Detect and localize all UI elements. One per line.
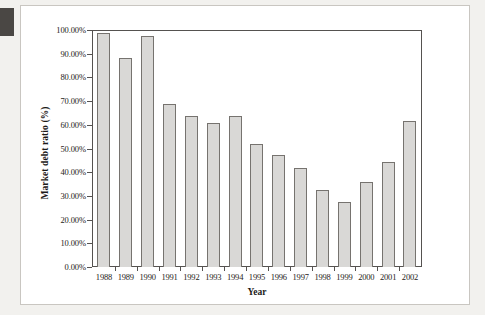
bar-slot [377,31,399,267]
bar-slot [180,31,202,267]
y-axis-tick-label: 0.00% [65,262,86,272]
y-axis-tick-label: 100.00% [56,25,86,35]
y-axis-tick-label: 90.00% [60,49,86,59]
x-axis-tick-mark [180,267,181,271]
y-axis-title: Market debt ratio (%) [40,63,50,243]
bar [119,58,132,267]
y-axis-tick-label: 20.00% [60,215,86,225]
bar-slot [290,31,312,267]
y-axis-tick-label: 50.00% [60,144,86,154]
x-axis-tick-mark [115,267,116,271]
scanned-page: Market debt ratio (%) 0.00%10.00%20.00%3… [0,0,485,315]
bar-slot [159,31,181,267]
y-axis-tick-mark [87,267,92,268]
x-axis-tick-label: 1999 [333,272,355,282]
bar-slot [137,31,159,267]
y-axis-tick-label: 60.00% [60,120,86,130]
bar [141,36,154,267]
x-axis-tick-mark [399,267,400,271]
x-axis-tick-mark [355,267,356,271]
y-axis-tick-label: 70.00% [60,96,86,106]
x-axis-tick-mark [202,267,203,271]
x-axis-tick-labels: 1988198919901991199219931994199519961997… [93,272,421,282]
x-axis-tick-mark [246,267,247,271]
x-axis-tick-mark [290,267,291,271]
x-axis-tick-label: 1991 [159,272,181,282]
x-axis-tick-mark [159,267,160,271]
bars-layer [93,31,421,267]
y-axis-tick-mark [87,54,92,55]
bar [163,104,176,267]
x-axis-tick-label: 1994 [224,272,246,282]
x-axis-tick-label: 2001 [377,272,399,282]
bar-slot [268,31,290,267]
bar-slot [93,31,115,267]
x-axis-tick-label: 1997 [290,272,312,282]
bar [207,123,220,267]
bar-slot [312,31,334,267]
bar-chart: Market debt ratio (%) 0.00%10.00%20.00%3… [21,6,471,306]
bar-slot [399,31,421,267]
x-axis-tick-label: 1993 [202,272,224,282]
bar-slot [202,31,224,267]
bar [294,168,307,267]
x-axis-tick-mark [224,267,225,271]
x-axis-tick-label: 1998 [312,272,334,282]
bar-slot [355,31,377,267]
y-axis-tick-mark [87,101,92,102]
y-axis: Market debt ratio (%) 0.00%10.00%20.00%3… [21,6,93,306]
x-axis-tick-mark [377,267,378,271]
bar-slot [224,31,246,267]
bar [338,202,351,267]
page-edge-marker [0,8,14,36]
x-axis-tick-mark [137,267,138,271]
bar-slot [115,31,137,267]
x-axis-tick-label: 1996 [268,272,290,282]
x-axis-tick-label: 1988 [93,272,115,282]
y-axis-tick-label: 40.00% [60,167,86,177]
bar [382,162,395,267]
x-axis-tick-label: 1989 [115,272,137,282]
x-axis-tick-label: 2002 [399,272,421,282]
x-axis-tick-label: 1992 [180,272,202,282]
y-axis-tick-mark [87,220,92,221]
figure-panel: Market debt ratio (%) 0.00%10.00%20.00%3… [20,5,470,305]
bar [185,116,198,267]
y-axis-tick-mark [87,77,92,78]
y-axis-tick-mark [87,125,92,126]
y-axis-tick-mark [87,172,92,173]
y-axis-tick-mark [87,243,92,244]
bar [316,190,329,267]
y-axis-tick-label: 30.00% [60,191,86,201]
bar-slot [246,31,268,267]
y-axis-tick-label: 10.00% [60,238,86,248]
x-axis-tick-label: 2000 [355,272,377,282]
bar [360,182,373,267]
x-axis-title: Year [93,287,421,297]
y-axis-tick-mark [87,196,92,197]
x-axis-tick-label: 1990 [137,272,159,282]
y-axis-tick-label: 80.00% [60,72,86,82]
x-axis-tick-label: 1995 [246,272,268,282]
bar-slot [333,31,355,267]
y-axis-tick-mark [87,30,92,31]
y-axis-tick-mark [87,149,92,150]
bar [97,33,110,267]
bar [229,116,242,267]
bar [403,121,416,267]
x-axis-tick-mark [312,267,313,271]
x-axis-tick-mark [334,267,335,271]
bar [250,144,263,267]
x-axis-tick-mark [268,267,269,271]
bar [272,155,285,267]
